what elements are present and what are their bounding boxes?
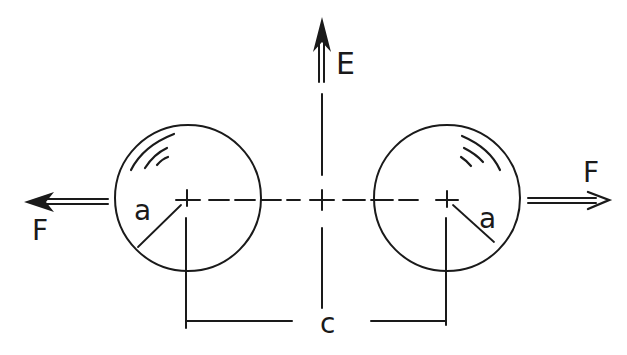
two-spheres-diagram: E a a F [0,0,627,355]
radius-label-right: a [479,202,496,235]
separation-dimension [186,218,446,328]
force-label-right: F [583,156,599,189]
radius-label-left: a [134,194,151,227]
force-label-left: F [32,214,48,247]
force-arrow-right-icon [528,192,609,209]
force-arrow-left-icon [24,192,108,212]
field-arrow-icon [313,17,331,82]
field-label: E [336,46,355,81]
separation-label: c [320,307,335,340]
